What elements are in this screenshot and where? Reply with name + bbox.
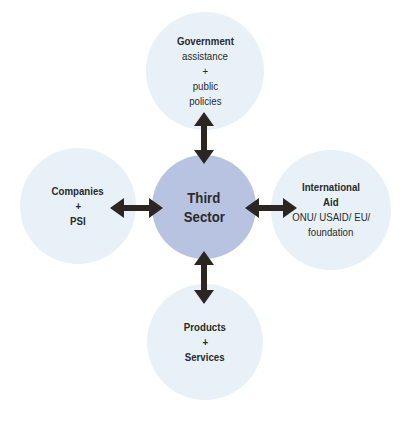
double-arrow-bottom-icon — [194, 251, 214, 304]
double-arrow-right-icon — [245, 198, 297, 218]
double-arrow-top-icon — [194, 112, 214, 164]
double-arrow-left-icon — [110, 198, 163, 218]
arrows-layer — [0, 0, 403, 422]
